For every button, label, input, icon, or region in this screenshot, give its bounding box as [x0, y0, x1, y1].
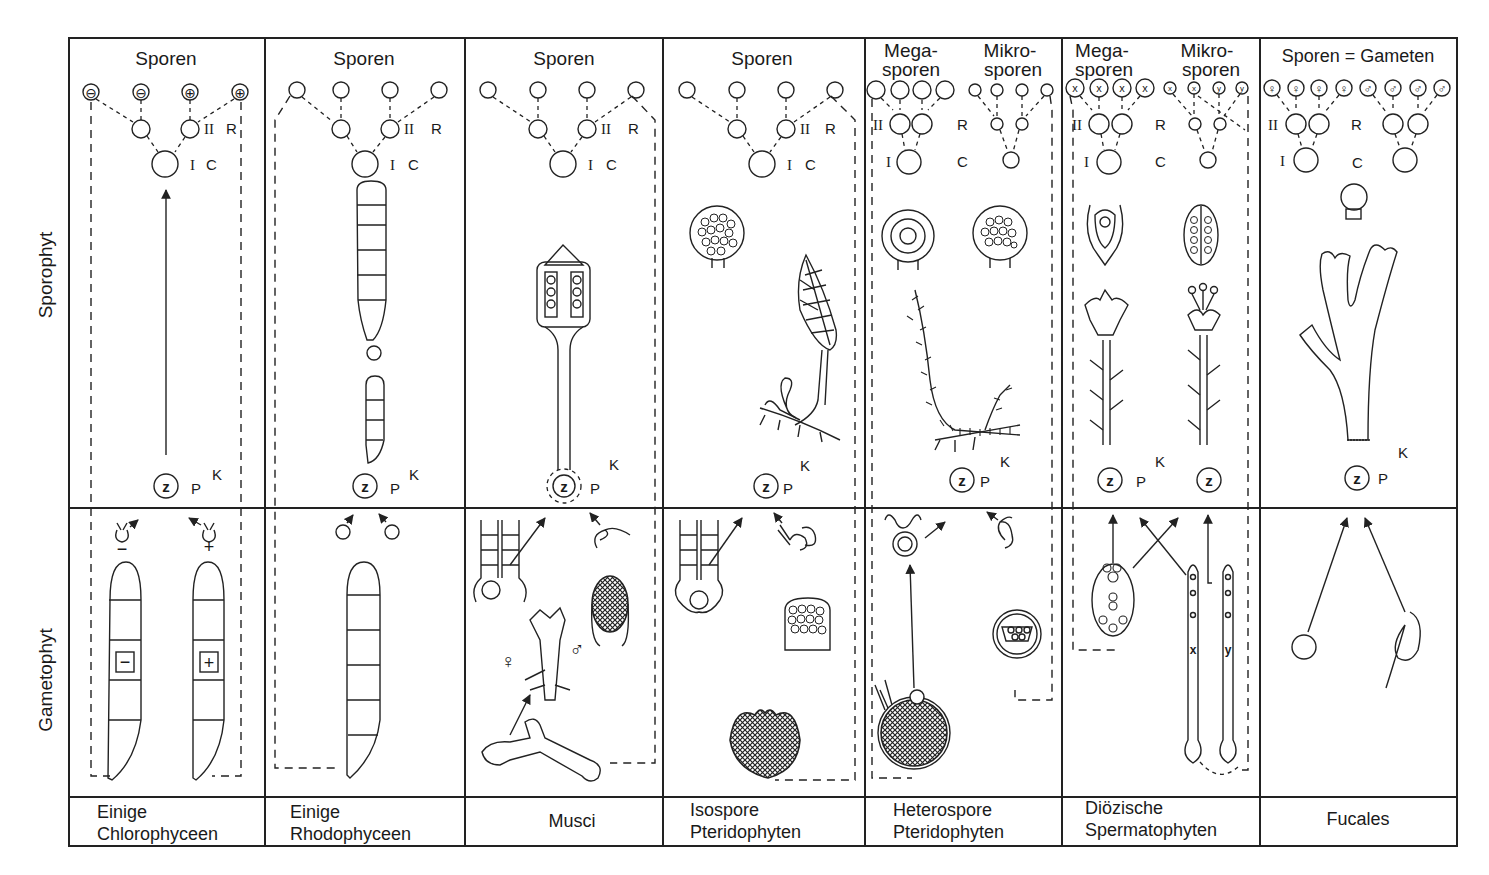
selaginella-plant	[907, 290, 1020, 452]
group-label-spermatophyten: Diözische	[1085, 798, 1163, 818]
svg-text:C: C	[1352, 154, 1363, 171]
svg-text:K: K	[1000, 453, 1010, 470]
c-label: C	[206, 156, 217, 173]
svg-text:x: x	[1192, 84, 1196, 93]
group-label-chlorophyceen: Chlorophyceen	[97, 824, 218, 844]
svg-text:II: II	[800, 121, 810, 137]
svg-text:P: P	[191, 480, 201, 497]
alternation-of-generations-diagram: Sporophyt Gametophyt Sporen ⊖ ⊖ ⊕ ⊕ II R…	[0, 0, 1489, 875]
svg-text:R: R	[1155, 116, 1166, 133]
female-symbol-icon: ♀	[1340, 82, 1349, 96]
svg-text:K: K	[609, 456, 619, 473]
svg-text:z: z	[162, 478, 170, 495]
column-header-mega: Mega-	[884, 40, 938, 61]
svg-text:z: z	[1106, 472, 1114, 489]
svg-text:y: y	[1240, 84, 1244, 93]
row-label-gametophyte: Gametophyt	[35, 628, 56, 732]
male-symbol-icon: ♂	[1438, 82, 1447, 96]
zygote-male: z	[1197, 468, 1221, 492]
svg-text:K: K	[800, 457, 810, 474]
r-label: R	[226, 120, 237, 137]
svg-text:II: II	[1268, 117, 1278, 133]
group-label-spermatophyten: Spermatophyten	[1085, 820, 1217, 840]
svg-text:z: z	[361, 478, 369, 495]
svg-text:R: R	[825, 120, 836, 137]
minus-mark: ⊖	[135, 85, 147, 101]
svg-text:K: K	[1155, 453, 1165, 470]
zygote: z P K	[1345, 444, 1408, 490]
column-header: Sporen	[333, 48, 394, 69]
svg-text:P: P	[980, 473, 990, 490]
svg-text:x: x	[1168, 84, 1172, 93]
female-symbol-icon: ♀	[1315, 82, 1324, 96]
megaspore-gametophyte	[875, 680, 950, 769]
svg-text:P: P	[390, 480, 400, 497]
column-header-mikro: Mikro-	[984, 40, 1037, 61]
meiosis-I-label: I	[190, 157, 195, 173]
svg-text:I: I	[787, 157, 792, 173]
x-chromosome-label: x	[1190, 643, 1197, 657]
svg-text:C: C	[957, 153, 968, 170]
male-symbol-icon: ♂	[1414, 82, 1423, 96]
female-flower-plant	[1085, 290, 1128, 445]
svg-text:x: x	[1142, 82, 1148, 94]
zygote: z P K	[353, 466, 419, 498]
svg-text:z: z	[1205, 472, 1213, 489]
column-header-mikro: sporen	[984, 59, 1042, 80]
svg-text:P: P	[1136, 473, 1146, 490]
female-symbol-icon: ♀	[1292, 82, 1301, 96]
column-header: Sporen	[135, 48, 196, 69]
svg-text:C: C	[408, 156, 419, 173]
svg-text:C: C	[1155, 153, 1166, 170]
column-header: Sporen = Gameten	[1282, 46, 1435, 66]
group-label-musci: Musci	[548, 811, 595, 831]
zygote: z P K	[154, 466, 222, 498]
group-label-isospore: Isospore	[690, 800, 759, 820]
svg-text:R: R	[431, 120, 442, 137]
column-chlorophyceen: Sporen ⊖ ⊖ ⊕ ⊕ II R I C z P K	[83, 48, 248, 780]
svg-text:R: R	[957, 116, 968, 133]
male-symbol-icon: ♂	[1364, 82, 1373, 96]
filament-minus: −	[108, 562, 141, 780]
svg-text:C: C	[805, 156, 816, 173]
svg-text:C: C	[606, 156, 617, 173]
svg-text:R: R	[1351, 116, 1362, 133]
svg-text:P: P	[1378, 470, 1388, 487]
moss-capsule	[537, 245, 590, 470]
minus-mark: −	[117, 539, 128, 559]
group-label-heterospore: Heterospore	[893, 800, 992, 820]
column-fucales: Sporen = Gameten ♀ ♀ ♀ ♀ ♂ ♂ ♂ ♂ II R I …	[1264, 46, 1450, 688]
column-header-mega: sporen	[882, 59, 940, 80]
svg-text:K: K	[409, 466, 419, 483]
zygote: z P K	[950, 453, 1010, 492]
column-header: Sporen	[731, 48, 792, 69]
group-label-isospore: Pteridophyten	[690, 822, 801, 842]
svg-text:K: K	[1398, 444, 1408, 461]
y-chromosome-label: y	[1225, 643, 1232, 657]
meiosis-tree: ⊖ ⊖ ⊕ ⊕ II R I C	[83, 84, 248, 177]
svg-text:I: I	[588, 157, 593, 173]
column-rhodophyceen: Sporen II R I C z P K	[275, 48, 447, 778]
svg-text:z: z	[762, 478, 770, 495]
svg-text:y: y	[1217, 84, 1221, 93]
svg-text:x: x	[1096, 82, 1102, 94]
column-header-mikro: sporen	[1182, 59, 1240, 80]
minus-mark: ⊖	[85, 85, 97, 101]
svg-text:+: +	[204, 653, 215, 673]
column-isospore: Sporen II R I C	[675, 48, 855, 780]
svg-text:I: I	[886, 154, 891, 170]
male-flower-plant	[1188, 284, 1220, 446]
plus-mark: +	[204, 537, 215, 557]
column-heterospore: Mega- sporen Mikro- sporen II I R C	[867, 40, 1053, 778]
svg-text:II: II	[873, 117, 883, 133]
svg-text:R: R	[628, 120, 639, 137]
svg-text:P: P	[783, 480, 793, 497]
column-header: Sporen	[533, 48, 594, 69]
column-header-mikro: Mikro-	[1181, 40, 1234, 61]
svg-text:P: P	[590, 480, 600, 497]
group-label-chlorophyceen: Einige	[97, 802, 147, 822]
group-labels-row: Einige Chlorophyceen Einige Rhodophyceen…	[97, 798, 1390, 844]
svg-text:I: I	[1084, 154, 1089, 170]
female-symbol-icon: ♀	[501, 650, 516, 672]
svg-text:−: −	[120, 652, 131, 672]
